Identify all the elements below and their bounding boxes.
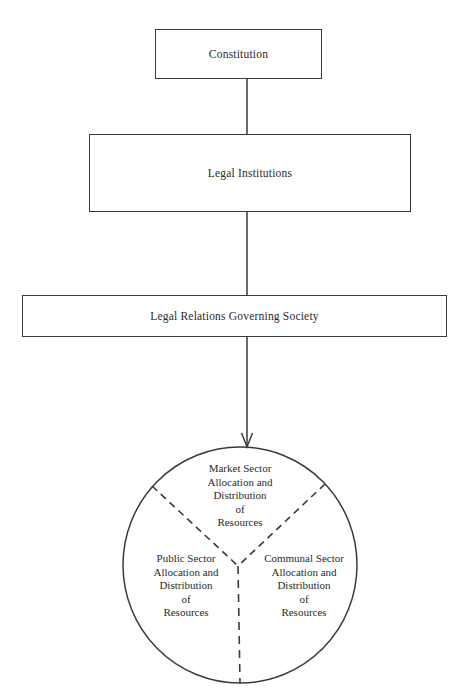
market-sector-line-5: Resources — [207, 516, 272, 530]
market-sector-line-3: Distribution — [207, 489, 272, 503]
market-sector-label: Market Sector Allocation and Distributio… — [207, 462, 272, 530]
communal-sector-line-2: Allocation and — [264, 566, 344, 580]
public-sector-label: Public Sector Allocation and Distributio… — [153, 552, 218, 620]
legal-institutions-box: Legal Institutions — [89, 134, 411, 212]
communal-sector-line-3: Distribution — [264, 579, 344, 593]
public-sector-line-3: Distribution — [153, 579, 218, 593]
legal-relations-box: Legal Relations Governing Society — [22, 295, 447, 337]
market-sector-line-2: Allocation and — [207, 476, 272, 490]
constitution-label: Constitution — [209, 48, 268, 60]
legal-relations-label: Legal Relations Governing Society — [150, 310, 319, 322]
divider-public-communal — [238, 566, 240, 683]
communal-sector-line-4: of — [264, 593, 344, 607]
market-sector-line-1: Market Sector — [207, 462, 272, 476]
communal-sector-line-1: Communal Sector — [264, 552, 344, 566]
constitution-box: Constitution — [155, 29, 322, 79]
market-sector-line-4: of — [207, 503, 272, 517]
public-sector-line-5: Resources — [153, 606, 218, 620]
communal-sector-label: Communal Sector Allocation and Distribut… — [264, 552, 344, 620]
public-sector-line-1: Public Sector — [153, 552, 218, 566]
public-sector-line-4: of — [153, 593, 218, 607]
communal-sector-line-5: Resources — [264, 606, 344, 620]
diagram-connectors — [0, 0, 456, 696]
legal-institutions-label: Legal Institutions — [208, 167, 292, 179]
public-sector-line-2: Allocation and — [153, 566, 218, 580]
